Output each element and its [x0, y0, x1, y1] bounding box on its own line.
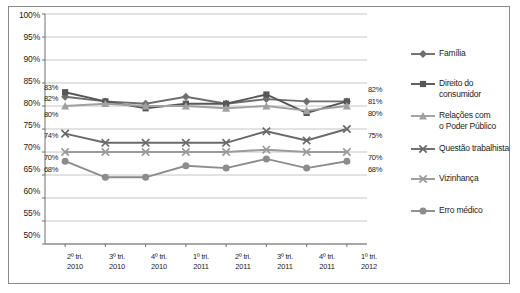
legend-label: Questão trabalhista [439, 143, 509, 154]
data-label-right: 80% [368, 109, 382, 118]
legend-item-direito-do-consumidor[interactable]: Direito do consumidor [410, 78, 481, 99]
legend-marker-triangle-icon [410, 110, 436, 122]
legend-marker-square-icon [410, 78, 436, 90]
data-label-left: 82% [44, 94, 58, 103]
legend-item-familia[interactable]: Família [410, 48, 465, 60]
data-label-right: 68% [368, 165, 382, 174]
x-tick-label: 3º tri.2010 [95, 252, 139, 272]
data-label-left: 74% [44, 131, 58, 140]
data-label-right: 75% [368, 131, 382, 140]
legend-item-erro-medico[interactable]: Erro médico [410, 205, 483, 217]
legend-label: Erro médico [439, 205, 483, 216]
data-label-left: 70% [44, 153, 58, 162]
legend-marker-x-icon [410, 143, 436, 155]
data-label-right: 82% [368, 85, 382, 94]
x-tick-label: 4º tri.2010 [137, 252, 181, 272]
data-label-left: 83% [44, 83, 58, 92]
x-tick-label: 2º tri.2011 [221, 252, 265, 272]
legend-label: Família [439, 48, 465, 59]
x-tick-label: 2º tri.2010 [53, 252, 97, 272]
legend-item-vizinhanca[interactable]: Vizinhança [410, 173, 478, 185]
legend-marker-diamond-icon [410, 48, 436, 60]
x-tick-label: 3º tri.2011 [263, 252, 307, 272]
x-tick-label: 1º tri.2012 [347, 252, 391, 272]
x-tick-label: 1º tri.2011 [179, 252, 223, 272]
legend-label: Direito do consumidor [439, 78, 481, 99]
legend-item-relacoes-poder-publico[interactable]: Relações com o Poder Público [410, 110, 496, 131]
data-label-right: 81% [368, 97, 382, 106]
legend-marker-circle-icon [410, 205, 436, 217]
data-label-right: 70% [368, 153, 382, 162]
legend-marker-x-icon [410, 173, 436, 185]
legend-label: Vizinhança [439, 173, 478, 184]
legend-item-questao-trabalhista[interactable]: Questão trabalhista [410, 143, 509, 155]
data-label-left: 80% [44, 110, 58, 119]
x-tick-label: 4º tri.2011 [305, 252, 349, 272]
line-chart: 100% 95% 90% 85% 80% 75% 70% 65% 60% 55%… [0, 0, 520, 293]
legend-label: Relações com o Poder Público [439, 110, 496, 131]
data-label-left: 68% [44, 165, 58, 174]
